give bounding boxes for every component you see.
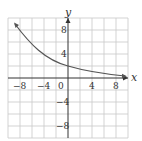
y-tick: 4 (61, 49, 67, 59)
x-tick: 0 (58, 81, 64, 91)
axes (8, 18, 128, 138)
graph: x y −8 −4 0 4 8 8 4 −4 −8 (0, 0, 142, 141)
x-tick: 8 (113, 81, 119, 91)
decay-curve (15, 24, 125, 76)
curve-arrow-left-icon (14, 23, 19, 29)
y-tick: 8 (61, 25, 67, 35)
x-axis-label: x (131, 71, 138, 84)
x-tick: −8 (13, 81, 27, 91)
x-tick: −4 (37, 81, 51, 91)
y-axis-label: y (64, 6, 72, 19)
y-tick: −4 (56, 97, 70, 107)
y-tick: −8 (56, 121, 70, 131)
x-tick: 4 (89, 81, 95, 91)
